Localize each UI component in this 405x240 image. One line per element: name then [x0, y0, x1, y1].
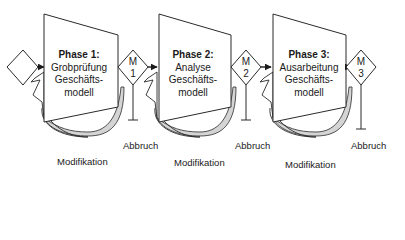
milestone-1-letter: M [123, 56, 143, 68]
phase-3-line-2: Geschäfts- [269, 74, 349, 87]
phase-1-line-1: Grobprüfung [39, 62, 119, 75]
milestone-3-number: 3 [351, 68, 371, 80]
phase-1-label: Phase 1: Grobprüfung Geschäfts- modell [39, 49, 119, 99]
abort-label-2: Abbruch [235, 140, 270, 152]
milestone-2-label: M 2 [236, 56, 256, 80]
phase-2-title: Phase 2: [153, 49, 233, 62]
abort-label-1: Abbruch [123, 140, 158, 152]
milestone-3-label: M 3 [351, 56, 371, 80]
milestone-1-number: 1 [123, 68, 143, 80]
phase-1-line-3: modell [39, 87, 119, 100]
milestone-2-letter: M [236, 56, 256, 68]
modification-label-1: Modifikation [57, 156, 108, 168]
modification-label-3: Modifikation [285, 159, 336, 171]
milestone-3-letter: M [351, 56, 371, 68]
modification-label-2: Modifikation [174, 157, 225, 169]
phase-2-line-2: Geschäfts- [153, 74, 233, 87]
phase-1-title: Phase 1: [39, 49, 119, 62]
phase-1-line-2: Geschäfts- [39, 74, 119, 87]
phase-2-line-1: Analyse [153, 62, 233, 75]
phase-3-label: Phase 3: Ausarbeitung Geschäfts- modell [269, 49, 349, 99]
phase-3-line-1: Ausarbeitung [269, 62, 349, 75]
phase-2-line-3: modell [153, 87, 233, 100]
phase-3-line-3: modell [269, 87, 349, 100]
abort-label-3: Abbruch [351, 140, 386, 152]
milestone-1-label: M 1 [123, 56, 143, 80]
phase-2-label: Phase 2: Analyse Geschäfts- modell [153, 49, 233, 99]
phase-3-title: Phase 3: [269, 49, 349, 62]
milestone-2-number: 2 [236, 68, 256, 80]
